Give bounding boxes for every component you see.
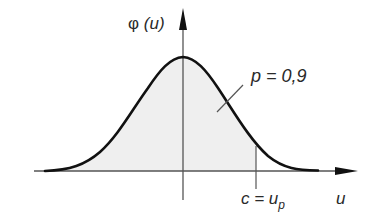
distribution-plot <box>0 0 373 222</box>
critical-value-label: c = up <box>241 190 285 207</box>
x-axis-label: u <box>336 190 345 207</box>
shaded-area-p <box>45 57 256 171</box>
area-probability-label: p = 0,9 <box>251 67 307 85</box>
y-axis-arrow-icon <box>179 8 187 30</box>
y-axis-label-symbol: φ <box>128 14 139 33</box>
critical-value-label-subscript: p <box>278 198 285 212</box>
x-axis-arrow-icon <box>335 167 358 175</box>
normal-distribution-figure: φ (u) p = 0,9 c = up u <box>0 0 373 222</box>
y-axis-label-arg: (u) <box>144 14 165 33</box>
y-axis-label: φ (u) <box>128 15 165 32</box>
critical-value-label-main: c = u <box>241 189 278 208</box>
